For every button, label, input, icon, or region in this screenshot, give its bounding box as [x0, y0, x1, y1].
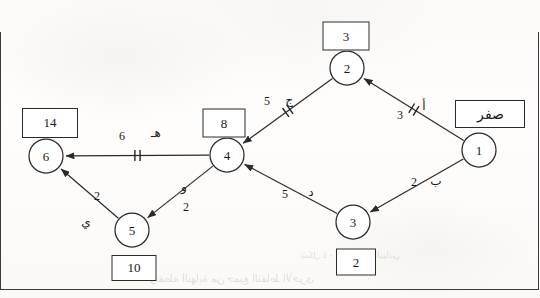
edge-relaxed-tick-mark [282, 108, 288, 117]
graph-edge [61, 169, 118, 218]
node-distance-box: 8 [203, 109, 246, 138]
edge-weight-label: 2 [183, 200, 189, 215]
graph-svg [0, 0, 540, 298]
edge-arrow [243, 79, 332, 144]
edge-name-label: و [181, 180, 187, 194]
node-distance-box: 10 [112, 255, 157, 281]
edge-name-label: ي [81, 215, 90, 229]
edge-weight-label: 3 [397, 108, 403, 123]
edge-name-label: هـ [151, 126, 161, 140]
node-label: 4 [224, 148, 231, 164]
edge-name-label: د [308, 185, 313, 199]
edge-name-label: ب [430, 174, 441, 188]
edge-weight-label: 5 [282, 187, 288, 202]
node-distance-box: صفر [455, 100, 525, 128]
node-label: 3 [350, 215, 357, 231]
node-distance-box: 14 [22, 108, 78, 138]
edge-arrow [61, 169, 118, 218]
graph-edge [364, 79, 464, 141]
edge-name-label: ج [285, 93, 293, 107]
edge-relaxed-tick-mark [409, 103, 415, 112]
graph-edge [245, 164, 337, 213]
edge-arrow [245, 164, 337, 213]
edges-layer [61, 79, 464, 219]
node-label: 2 [344, 61, 351, 77]
graph-edge [66, 150, 209, 161]
node-distance-box: 3 [323, 22, 370, 51]
edge-relaxed-tick-mark [413, 106, 419, 115]
edge-weight-label: 6 [119, 129, 125, 144]
node-distance-box: 2 [336, 249, 376, 276]
node-label: 1 [476, 143, 483, 159]
diagram-canvas: ونقطة النهاية من جميع النقاط الأخرىشكل ٤… [0, 0, 540, 298]
edge-name-label: أ [422, 99, 425, 113]
nodes-layer [29, 51, 496, 247]
edge-arrow [364, 79, 464, 141]
edge-weight-label: 5 [264, 94, 270, 109]
edge-weight-label: 2 [411, 175, 417, 190]
node-label: 6 [43, 149, 50, 165]
graph-edge [243, 79, 332, 144]
node-label: 5 [129, 223, 136, 239]
edge-arrow [66, 155, 209, 156]
edge-weight-label: 2 [94, 189, 100, 204]
